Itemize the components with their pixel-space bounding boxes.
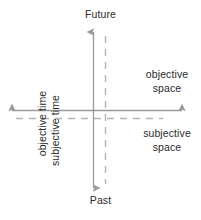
objective-time-label: objective time [36, 54, 49, 194]
time-space-axes-diagram: Future Past objective time subjective ti… [0, 0, 201, 220]
subjective-space-label-line1: subjective [143, 127, 191, 139]
past-label: Past [0, 194, 201, 207]
objective-space-label: objective space [136, 67, 198, 95]
future-label: Future [0, 8, 201, 21]
objective-space-label-line1: objective [146, 68, 188, 80]
subjective-space-label: subjective space [134, 126, 200, 154]
objective-space-label-line2: space [153, 82, 182, 94]
subjective-space-label-line2: space [153, 141, 182, 153]
axes-graphic [0, 0, 201, 220]
subjective-time-label: subjective time [49, 61, 62, 201]
